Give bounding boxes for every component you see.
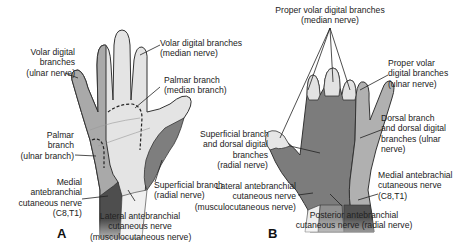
label-line: branches <box>15 57 75 67</box>
label-line: (ulnar nerve) <box>388 79 448 89</box>
label-line: branch <box>12 140 74 150</box>
label-lateral-antebrachial-b: Lateral antebranchial cutaneous nerve (m… <box>190 181 296 212</box>
label-line: Medial antebrachial <box>378 170 453 180</box>
panel-letter-a: A <box>57 226 66 241</box>
label-line: (ulnar nerve) <box>15 68 75 78</box>
label-line: Palmar branch <box>164 75 227 85</box>
label-line: Proper volar <box>388 58 448 68</box>
label-line: Medial <box>10 177 82 187</box>
label-palmar-branch-median: Palmar branch (median branch) <box>164 75 227 96</box>
label-volar-digital-median: Volar digital branches (median nerve) <box>160 38 242 59</box>
label-line: nerve) <box>381 144 446 154</box>
label-line: cutaneous nerve <box>378 180 453 190</box>
label-volar-digital-ulnar: Volar digital branches (ulnar nerve) <box>15 47 75 78</box>
label-line: (median nerve) <box>160 48 242 58</box>
proper-volar-tip-ring <box>342 80 356 100</box>
label-line: Dorsal branch <box>381 113 446 123</box>
label-medial-antebrachial-a: Medial antebranchial cutaneous nerve (C8… <box>10 177 82 219</box>
label-line: (radial nerve) <box>200 160 268 170</box>
label-line: Lateral antebranchial <box>190 181 296 191</box>
label-line: cutaneous nerve <box>190 191 296 201</box>
label-line: (median branch) <box>164 85 227 95</box>
label-line: Superficial branch <box>200 129 268 139</box>
label-line: (C8,T1) <box>378 191 453 201</box>
label-line: Volar digital branches <box>160 38 242 48</box>
label-line: and dorsal digital <box>200 139 268 149</box>
label-proper-volar-median: Proper volar digital branches (median ne… <box>270 5 390 26</box>
label-posterior-antebrachial: Posterior antebranchial cutaneous nerve … <box>294 210 414 231</box>
label-proper-volar-ulnar: Proper volar digital branches (ulnar ner… <box>388 58 448 89</box>
label-line: (C8,T1) <box>10 208 82 218</box>
label-palmar-branch-ulnar: Palmar branch (ulnar branch) <box>12 130 74 161</box>
label-line: cutaneous nerve (radial nerve) <box>294 220 414 230</box>
label-line: Lateral antebranchial <box>90 211 190 221</box>
label-line: cutaneous nerve <box>10 198 82 208</box>
label-dorsal-branch-ulnar: Dorsal branch and dorsal digital branche… <box>381 113 446 155</box>
label-line: cutaneous nerve <box>90 221 190 231</box>
label-line: branches <box>200 150 268 160</box>
label-line: digital branches <box>388 68 448 78</box>
label-line: antebranchial <box>10 187 82 197</box>
label-medial-antebrachial-b: Medial antebrachial cutaneous nerve (C8,… <box>378 170 453 201</box>
label-line: Palmar <box>12 130 74 140</box>
label-superficial-dorsal-radial: Superficial branch and dorsal digital br… <box>200 129 268 171</box>
label-line: Proper volar digital branches <box>270 5 390 15</box>
panel-letter-b: B <box>268 226 277 241</box>
label-line: (ulnar branch) <box>12 151 74 161</box>
label-line: Posterior antebranchial <box>294 210 414 220</box>
label-line: and dorsal digital <box>381 123 446 133</box>
proper-volar-tip-middle <box>324 68 340 96</box>
label-lateral-antebrachial-a: Lateral antebranchial cutaneous nerve (m… <box>90 211 190 242</box>
label-line: (musculocutaneous nerve) <box>190 202 296 212</box>
label-line: (musculocutaneous nerve) <box>90 232 190 242</box>
label-line: branches (ulnar <box>381 134 446 144</box>
label-line: (median nerve) <box>270 15 390 25</box>
label-line: Volar digital <box>15 47 75 57</box>
thumb-tip <box>265 131 290 150</box>
